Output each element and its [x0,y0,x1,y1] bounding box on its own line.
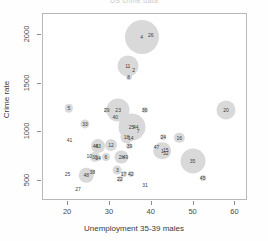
point-label: 11 [125,63,130,68]
point-label: 45 [200,175,206,180]
point-label: 29 [104,108,110,113]
point-label: 32 [163,151,169,156]
point-label: 3 [116,168,119,173]
point-label: 40 [112,114,118,119]
y-axis-tick [37,131,41,132]
point-label: 25 [65,171,71,176]
y-axis-tick-label: 2000 [22,26,31,43]
point-label: 5 [67,106,70,111]
point-label: 6 [105,155,108,160]
point-label: 26 [148,32,154,37]
x-axis-tick-label: 60 [230,207,238,216]
x-axis-tick-label: 40 [147,207,155,216]
point-label: 47 [154,144,160,149]
point-label: 23 [115,108,121,113]
x-axis-tick [109,201,110,205]
point-label: 42 [128,172,134,177]
point-label: 31 [142,182,148,187]
y-axis-tick [37,83,41,84]
point-label: 34 [95,156,101,161]
x-axis-tick-label: 50 [188,207,196,216]
point-label: 16 [176,135,182,140]
point-label: 22 [117,177,123,182]
point-label: 49 [122,155,128,160]
point-label: 20 [223,108,229,113]
point-label: 46 [93,143,99,148]
point-label: 8 [127,75,130,80]
y-axis-tick-label: 500 [22,173,31,186]
point-label: 48 [84,173,90,178]
y-axis-tick [37,180,41,181]
point-label: 39 [127,144,133,149]
point-label: 41 [67,137,73,142]
point-label: 33 [82,122,88,127]
x-axis-tick [67,201,68,205]
point-label: 4 [140,35,143,40]
y-axis-tick-label: 1500 [22,74,31,91]
y-axis-label: Crime rate [2,60,11,140]
x-axis-tick [234,201,235,205]
y-axis-tick-label: 1000 [22,123,31,140]
point-label: 14 [128,135,134,140]
chart-title: US crime data [0,0,268,4]
x-axis-tick-label: 20 [63,207,71,216]
point-label: 35 [190,159,196,164]
bubble-chart-figure: US crime data 42611285292340362033254474… [0,0,268,241]
x-axis-tick [193,201,194,205]
point-label: 27 [75,187,81,192]
point-label: 36 [142,107,148,112]
x-axis-label: Unemployment 35-39 males [0,224,268,233]
point-label: 7 [137,128,140,133]
x-axis-tick-label: 30 [105,207,113,216]
point-label: 24 [161,135,167,140]
y-axis-tick [37,34,41,35]
x-axis-tick [151,201,152,205]
point-label: 38 [89,169,95,174]
point-label: 12 [108,143,114,148]
point-label: 2 [132,67,135,72]
